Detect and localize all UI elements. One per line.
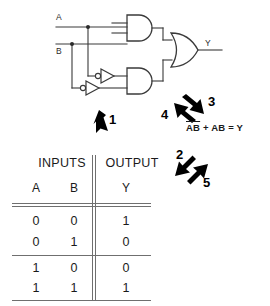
callout-number-3: 3 bbox=[208, 95, 215, 108]
boolean-equation: AB + AB = Y bbox=[186, 122, 243, 133]
truth-table-column-header-b: B bbox=[64, 182, 84, 194]
truth-table-bottom-rule bbox=[12, 300, 151, 301]
truth-table: INPUTS OUTPUT A B Y 0 0 1 0 1 0 1 0 0 1 … bbox=[12, 155, 151, 301]
callout-number-2: 2 bbox=[176, 148, 183, 161]
table-row: 0 bbox=[64, 262, 84, 275]
truth-table-group-header-output: OUTPUT bbox=[102, 157, 162, 170]
truth-table-header-rule-upper bbox=[12, 203, 151, 204]
table-row: 1 bbox=[64, 236, 84, 249]
callout-arrow-4 bbox=[174, 103, 196, 123]
callout-arrow-1 bbox=[94, 110, 109, 133]
table-row: 0 bbox=[26, 215, 46, 228]
callout-arrow-3 bbox=[182, 94, 204, 114]
truth-table-vertical-divider-left bbox=[92, 155, 93, 301]
equation-term2: AB bbox=[211, 122, 225, 133]
xnor-logic-diagram-page: A B Y 1 2 3 4 5 AB + AB = Y bbox=[0, 0, 270, 306]
table-row: 1 bbox=[26, 282, 46, 295]
equation-plus-sign: + bbox=[203, 122, 209, 133]
truth-table-middle-rule bbox=[12, 255, 151, 256]
truth-table-vertical-divider-right bbox=[95, 155, 96, 301]
table-row: 0 bbox=[64, 215, 84, 228]
equation-term1-a: A bbox=[186, 122, 193, 133]
table-row: 1 bbox=[64, 282, 84, 295]
callout-number-4: 4 bbox=[161, 108, 168, 121]
table-row: 1 bbox=[26, 262, 46, 275]
truth-table-header-rule-lower bbox=[12, 206, 151, 207]
truth-table-column-header-y: Y bbox=[116, 182, 136, 194]
callout-number-5: 5 bbox=[203, 176, 210, 189]
equation-result: Y bbox=[237, 122, 244, 133]
table-row: 1 bbox=[116, 282, 136, 295]
table-row: 0 bbox=[26, 236, 46, 249]
callout-number-1: 1 bbox=[109, 113, 116, 126]
table-row: 0 bbox=[116, 262, 136, 275]
table-row: 1 bbox=[116, 215, 136, 228]
equation-term1-b: B bbox=[193, 122, 200, 133]
truth-table-column-header-a: A bbox=[26, 182, 46, 194]
equation-equals-sign: = bbox=[228, 122, 234, 133]
table-row: 0 bbox=[116, 236, 136, 249]
